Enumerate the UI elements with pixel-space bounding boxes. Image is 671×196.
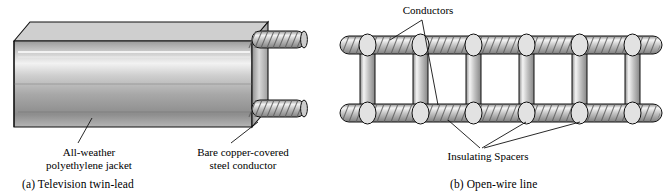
conductors-label-line1: Conductors [380,4,476,17]
bottom-conductor [335,104,671,122]
jacket-body [14,22,268,127]
jacket-label-line2: polyethylene jacket [14,159,164,172]
insulating-spacers-label-line1: Insulating Spacers [428,150,548,163]
panel-television-twin-lead: All-weather polyethylene jacket Bare cop… [0,0,330,196]
conductors-label: Conductors [380,4,476,17]
conductor-label: Bare copper-covered steel conductor [180,146,306,172]
caption-panel-b: (b) Open-wire line [450,178,537,190]
leader-lines-spacers [448,120,580,148]
figure-root: All-weather polyethylene jacket Bare cop… [0,0,671,196]
top-conductor [335,36,671,54]
jacket-label: All-weather polyethylene jacket [14,146,164,172]
jacket-label-line1: All-weather [14,146,164,159]
conductor-label-line1: Bare copper-covered [180,146,306,159]
insulating-spacers-label: Insulating Spacers [428,150,548,163]
open-wire-drawing [330,0,671,196]
caption-panel-a: (a) Television twin-lead [22,178,134,190]
upper-conductor [249,31,310,48]
conductor-label-line2: steel conductor [180,159,306,172]
panel-open-wire-line: Conductors Insulating Spacers (b) Open-w… [330,0,671,196]
lower-conductor [249,100,310,117]
